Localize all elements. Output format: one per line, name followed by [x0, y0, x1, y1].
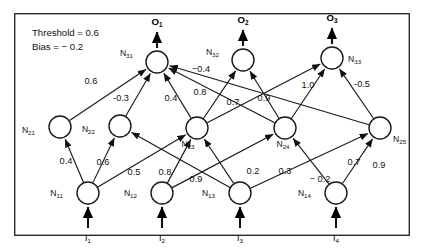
weight-label-n11-n21: 0.4 [60, 156, 73, 166]
node-label-n31: N31 [120, 48, 134, 59]
node-label-n23: N23 [181, 139, 195, 150]
node-label-n13: N13 [202, 188, 216, 199]
weight-label-n22-n31: -0.3 [113, 93, 129, 103]
weight-label-n25-n33: -0.5 [354, 79, 370, 89]
node-n32[interactable] [232, 49, 254, 71]
weight-label-n23-n32: 0.8 [194, 87, 207, 97]
param-threshold: Threshold = 0.6 [32, 27, 99, 38]
node-label-n24: N24 [276, 139, 290, 150]
node-label-n21: N21 [22, 125, 36, 136]
node-n25[interactable] [369, 117, 391, 139]
node-label-n14: N14 [298, 188, 312, 199]
node-n33[interactable] [321, 47, 343, 69]
node-n24[interactable] [274, 117, 296, 139]
output-label-o2: O2 [237, 14, 248, 26]
network-svg: 0.40.60.50.80.90.20.3− 0.20.70.90.6-0.30… [0, 0, 423, 249]
weight-label-n12-n24: 0.9 [190, 174, 203, 184]
node-label-n32: N32 [206, 47, 220, 58]
nodes-group [49, 47, 391, 204]
weight-label-n11-n22: 0.6 [97, 157, 110, 167]
weight-label-n23-n31: 0.4 [165, 93, 178, 103]
weight-label-n21-n31: 0.6 [85, 76, 98, 86]
neural-network-diagram: 0.40.60.50.80.90.20.3− 0.20.70.90.6-0.30… [0, 0, 423, 249]
node-label-n25: N25 [393, 134, 407, 145]
edge-n25-n33 [339, 69, 373, 119]
node-n11[interactable] [77, 182, 99, 204]
param-bias: Bias = − 0.2 [32, 41, 83, 52]
edge-n11-n23 [98, 135, 186, 187]
edge-n21-n31 [70, 69, 146, 120]
node-n31[interactable] [146, 51, 168, 73]
weight-label-n14-n24: 0.7 [348, 157, 361, 167]
node-n14[interactable] [325, 182, 347, 204]
weight-label-n14-n25: 0.9 [373, 160, 386, 170]
weight-label-n13-n23: 0.3 [279, 166, 292, 176]
node-label-n12: N12 [124, 188, 138, 199]
node-n23[interactable] [186, 117, 208, 139]
node-label-n22: N22 [82, 124, 96, 135]
weight-label-n25-n31: −0.4 [192, 64, 210, 74]
node-n13[interactable] [229, 182, 251, 204]
weight-label-n24-n32: 0.7 [227, 97, 240, 107]
node-n22[interactable] [109, 115, 131, 137]
weight-label-n13-n22: 0.2 [247, 166, 260, 176]
node-n12[interactable] [151, 182, 173, 204]
params-group: Threshold = 0.6Bias = − 0.2 [32, 27, 99, 52]
node-n21[interactable] [49, 116, 71, 138]
weight-label-n12-n23: 0.8 [159, 167, 172, 177]
output-label-o1: O1 [151, 16, 162, 28]
weight-label-n23-n33: 1.0 [302, 80, 315, 90]
node-label-n11: N11 [50, 188, 63, 199]
edge-n13-n23 [204, 139, 233, 183]
weight-label-n24-n33: 0.9 [258, 93, 271, 103]
node-label-n33: N33 [348, 54, 362, 65]
weight-label-n11-n23: 0.5 [128, 167, 141, 177]
weight-label-n13-n25: − 0.2 [310, 174, 331, 184]
